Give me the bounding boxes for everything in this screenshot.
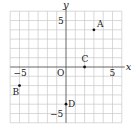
y-tick-label: −5 [50, 109, 64, 119]
y-tick-label: 5 [58, 16, 64, 26]
point-label-c: C [82, 54, 89, 64]
x-tick-label: −5 [14, 68, 28, 78]
point-label-b: B [13, 87, 20, 97]
point-c [83, 66, 86, 69]
y-axis-label: y [62, 0, 69, 10]
point-label-a: A [96, 19, 104, 29]
coordinate-plane: xyO−555−5 ABCD [0, 0, 131, 132]
x-axis-label: x [126, 61, 131, 72]
x-tick-label: 5 [110, 68, 116, 78]
point-a [93, 28, 96, 31]
point-label-d: D [68, 99, 75, 109]
origin-label: O [57, 68, 64, 78]
point-d [65, 103, 68, 106]
data-points: ABCD [13, 19, 104, 109]
